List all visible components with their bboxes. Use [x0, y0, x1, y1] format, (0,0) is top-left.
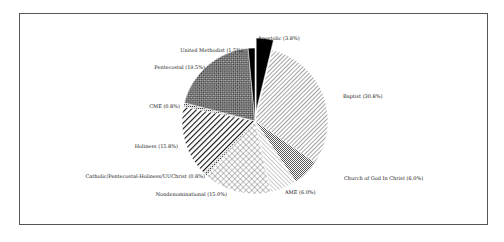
slice-label: Holiness (15.8%) — [135, 143, 178, 149]
slice-label: Baptist (30.8%) — [343, 93, 382, 100]
slice-label: Catholic/Pentecostal-Holiness/UUChrist (… — [86, 173, 206, 179]
pie-chart: Apostolic (3.8%)Baptist (30.8%)Church of… — [0, 0, 504, 242]
slice-label: Pentecostal (19.5%) — [154, 64, 205, 70]
slice-label: Nondenominational (15.0%) — [156, 191, 227, 197]
slice-label: Apostolic (3.8%) — [257, 35, 300, 42]
pie-slices — [182, 38, 328, 194]
slice-label: AME (6.0%) — [284, 189, 316, 195]
slice-label: United Methodist (1.5%) — [180, 47, 243, 53]
slice-label: CME (0.8%) — [149, 103, 180, 109]
slice-label: Church of God In Christ (6.0%) — [344, 175, 423, 181]
